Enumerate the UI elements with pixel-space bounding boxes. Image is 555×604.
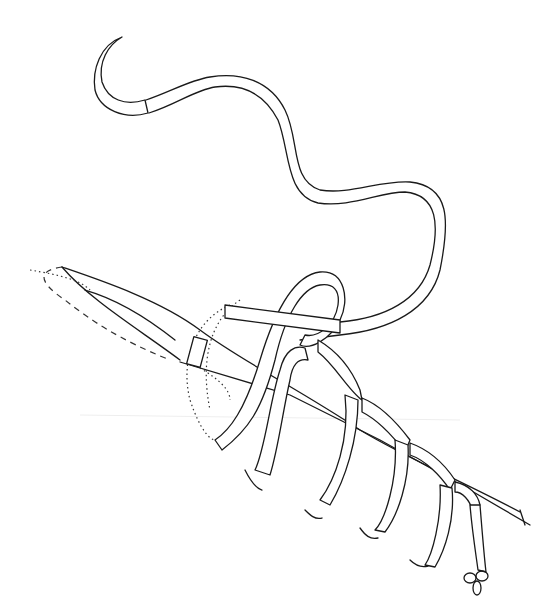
suture-drawing	[0, 0, 555, 604]
suture-loop-main	[215, 272, 345, 475]
needle-icon	[94, 37, 148, 115]
illustration	[0, 0, 555, 604]
tissue-tube	[187, 337, 208, 368]
